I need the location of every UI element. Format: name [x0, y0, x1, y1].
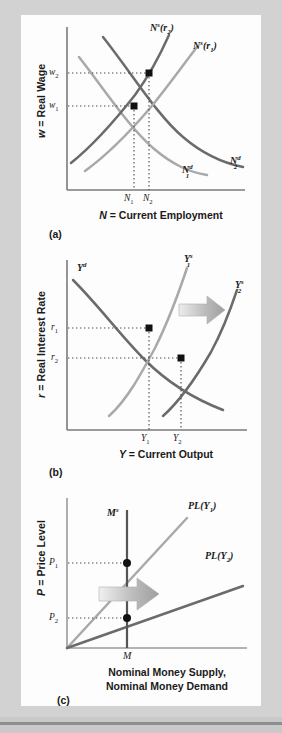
- panel-c: P = Price Level P1 P2 M Ms PL(Y1) PL(Y2)…: [21, 488, 261, 706]
- panel-a-xtick-N1: N1: [124, 193, 134, 205]
- panel-c-ytick-P2: P2: [49, 612, 58, 624]
- panel-b-x-axis-title: Y = Current Output: [91, 448, 241, 460]
- figure-root: w = Real Wage w2 w1 N1 N2 Ns(r2) Ns(r1) …: [0, 0, 282, 733]
- panel-b-ytick-r1: r1: [51, 322, 58, 334]
- curve-output-supply-1: [109, 268, 187, 416]
- panel-c-ytick-P1: P1: [49, 557, 58, 569]
- curve-labor-demand-2: [103, 37, 243, 167]
- curve-label-labor-supply-r1: Ns(r1): [193, 39, 217, 53]
- bottom-strip: [0, 725, 282, 733]
- panel-c-y-axis-title: P = Price Level: [35, 520, 47, 596]
- panel-a-caption: (a): [49, 228, 62, 240]
- curve-label-labor-demand-2: Nd2: [230, 154, 244, 168]
- panel-c-x-axis-title-line1: Nominal Money Supply,: [77, 666, 257, 678]
- shift-arrow-b: [179, 296, 225, 324]
- panel-c-x-axis-title-line2: Nominal Money Demand: [77, 680, 257, 692]
- curve-label-output-supply-1: Ys1: [184, 252, 196, 266]
- panel-a-x-axis-title: N = Current Employment: [71, 209, 251, 221]
- panel-b-caption: (b): [49, 466, 62, 478]
- panel-a-y-axis-title: w = Real Wage: [35, 64, 47, 138]
- panel-b-ytick-r2: r2: [51, 352, 58, 364]
- point-equilibrium-1: [123, 559, 131, 567]
- point-equilibrium-2: [178, 355, 185, 362]
- curve-label-labor-demand-1: Nd1: [182, 163, 196, 177]
- panel-a-ytick-w2: w2: [49, 67, 59, 79]
- panel-a: w = Real Wage w2 w1 N1 N2 Ns(r2) Ns(r1) …: [21, 15, 261, 240]
- curve-labor-supply-r2: [71, 35, 169, 163]
- curve-labor-supply-r1: [85, 47, 197, 171]
- panel-a-xtick-N2: N2: [143, 193, 153, 205]
- panel-c-xtick-M: M: [123, 650, 131, 661]
- panel-c-axes: [67, 498, 247, 648]
- curve-label-output-supply-2: Ys2: [235, 278, 247, 292]
- point-equilibrium-1: [131, 103, 138, 110]
- curve-label-money-supply: Ms: [107, 506, 119, 518]
- panel-b: r = Real Interest Rate r1 r2 Y1 Y2 Yd Ys…: [21, 248, 261, 480]
- panel-b-xtick-Y1: Y1: [141, 433, 150, 445]
- panel-c-caption: (c): [57, 694, 70, 706]
- panel-b-xtick-Y2: Y2: [173, 433, 182, 445]
- curve-label-output-demand: Yd: [77, 261, 87, 273]
- panel-a-ytick-w1: w1: [49, 100, 59, 112]
- point-equilibrium-2: [146, 70, 153, 77]
- point-equilibrium-2: [123, 614, 131, 622]
- curve-output-demand: [73, 280, 223, 410]
- curve-label-labor-supply-r2: Ns(r2): [150, 21, 174, 35]
- curve-label-price-level-Y2: PL(Y2): [205, 550, 233, 563]
- point-equilibrium-1: [146, 325, 153, 332]
- panel-b-y-axis-title: r = Real Interest Rate: [35, 291, 47, 398]
- curve-label-price-level-Y1: PL(Y1): [188, 500, 216, 513]
